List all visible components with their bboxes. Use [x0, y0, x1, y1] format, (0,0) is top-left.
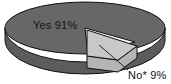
- yes-slice-label: Yes 91%: [33, 20, 77, 31]
- pie-chart-figure: Yes 91% No* 9%: [0, 0, 171, 84]
- no-slice-label: No* 9%: [128, 70, 167, 81]
